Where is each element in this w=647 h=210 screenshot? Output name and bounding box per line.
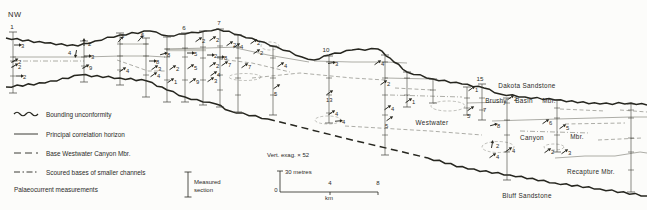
palaeocurrent-value: 4 <box>217 72 221 78</box>
palaeocurrent-value: 7 <box>228 62 231 68</box>
palaeocurrent-value: 2 <box>496 143 499 149</box>
channel-lens <box>229 74 261 81</box>
palaeocurrent-value: 2 <box>216 63 219 69</box>
arrow-shaft <box>278 64 282 67</box>
strat-unit-label: Canyon <box>520 134 544 142</box>
palaeocurrent-measurement: 3 <box>84 54 94 60</box>
dashed-correlation-line <box>395 88 432 90</box>
measured-section <box>503 98 511 180</box>
strat-unit-label: Basin <box>515 97 533 104</box>
vertical-scale-label: 30 metres <box>285 169 312 175</box>
measured-section <box>463 87 471 115</box>
arrow-shaft <box>82 66 87 69</box>
palaeocurrent-measurement: 3 <box>207 76 218 84</box>
palaeocurrent-value: 4 <box>68 50 72 56</box>
strat-unit-label: Mbr. <box>570 133 584 140</box>
measured-section <box>80 41 88 82</box>
scale-unit-label: km <box>325 195 333 201</box>
section-number: 10 <box>323 46 330 53</box>
palaeocurrent-value: 3 <box>21 43 24 49</box>
palaeocurrent-value: 2 <box>551 149 554 155</box>
palaeocurrent-measurement: 2 <box>209 61 220 69</box>
palaeocurrent-measurement: 5 <box>559 123 570 131</box>
arrow-shaft <box>490 155 494 158</box>
palaeocurrent-value: 2 <box>387 81 390 87</box>
arrow-shaft <box>545 150 549 153</box>
palaeocurrent-value: 4 <box>381 61 385 67</box>
palaeocurrent-measurement: 5 <box>117 33 125 43</box>
dashed-correlation-line <box>345 126 482 135</box>
channel-lens <box>431 101 465 111</box>
palaeocurrent-value: 2 <box>176 66 179 72</box>
palaeocurrent-value: 5 <box>194 65 197 71</box>
palaeocurrent-measurement: 4 <box>489 152 500 160</box>
legend-label-bounding-unconformity: Bounding unconformity <box>46 111 112 119</box>
palaeocurrent-value: 4 <box>284 63 288 69</box>
palaeocurrent-measurement: 7 <box>221 60 232 68</box>
palaeocurrent-value: 4 <box>126 68 130 74</box>
palaeocurrent-value: 5 <box>566 125 569 131</box>
palaeocurrent-measurement: 5 <box>467 105 476 119</box>
palaeocurrent-measurement: 4 <box>210 70 221 78</box>
legend-wavy-line-sample <box>14 112 38 116</box>
palaeocurrent-value: 8 <box>497 123 500 129</box>
palaeocurrent-arrows-layer: 3222243954683482155922242827743224531344… <box>11 32 572 160</box>
palaeocurrent-measurement: 5 <box>385 115 394 129</box>
palaeocurrent-measurement: 2 <box>207 53 217 59</box>
palaeocurrent-value: 4 <box>342 119 346 125</box>
palaeocurrent-value: 8 <box>224 55 227 61</box>
arrow-shaft <box>274 86 278 89</box>
palaeocurrent-value: 8 <box>167 52 170 58</box>
palaeocurrent-value: 1 <box>174 79 177 85</box>
region-label: NW <box>8 10 22 19</box>
arrow-head <box>82 38 85 41</box>
palaeocurrent-value: 5 <box>467 113 470 119</box>
palaeocurrent-value: 3 <box>214 78 217 84</box>
measured-section <box>429 79 437 103</box>
arrow-shaft <box>190 80 194 83</box>
arrow-shaft <box>170 67 174 70</box>
palaeocurrent-arrow <box>467 105 476 112</box>
palaeocurrent-measurement: 4 <box>277 61 288 69</box>
correlation-line <box>492 117 647 121</box>
palaeocurrent-measurement: 2 <box>16 74 26 80</box>
palaeocurrent-value: 4 <box>391 106 395 112</box>
palaeocurrent-value: 6 <box>549 120 552 126</box>
palaeocurrent-value: 3 <box>91 54 94 60</box>
bounding-unconformity-line <box>6 29 647 105</box>
palaeocurrent-value: 2 <box>216 37 219 43</box>
arrow-shaft <box>387 118 391 121</box>
palaeocurrent-measurement: 4 <box>374 59 385 67</box>
arrow-shaft <box>327 92 331 95</box>
arrow-shaft <box>208 79 212 82</box>
palaeocurrent-measurement: 2 <box>253 48 264 56</box>
scale-tick-0: 0 <box>274 187 278 193</box>
measured-section <box>142 38 150 97</box>
cross-section-svg: 3222243954683482155922242827743224531344… <box>0 0 647 210</box>
palaeocurrent-value: 3 <box>568 150 571 156</box>
strat-unit-label: Westwater <box>416 119 449 126</box>
palaeocurrent-value: 1 <box>475 87 478 93</box>
palaeocurrent-value: 4 <box>335 111 339 117</box>
legend: Bounding unconformity Principal correlat… <box>14 111 145 193</box>
palaeocurrent-value: 4 <box>512 148 516 154</box>
palaeocurrent-value: 9 <box>89 65 92 71</box>
palaeocurrent-value: 3 <box>158 66 161 72</box>
correlation-line <box>236 48 309 62</box>
measured-section <box>181 33 189 102</box>
vertical-exaggeration-label: Vert. exag. × 52 <box>267 152 310 158</box>
scale-tick-4: 4 <box>328 180 332 186</box>
arrow-shaft <box>562 151 566 154</box>
arrow-shaft <box>11 65 16 68</box>
section-number: 1 <box>10 23 14 30</box>
palaeocurrent-measurement: 1 <box>167 77 178 85</box>
palaeocurrent-measurement: 13 <box>326 89 335 103</box>
arrow-shaft <box>251 41 255 44</box>
palaeocurrent-value: 5 <box>121 33 124 39</box>
strat-unit-label: Brushy <box>485 97 507 105</box>
palaeocurrent-arrow <box>82 38 85 46</box>
palaeocurrent-value: 2 <box>202 38 205 44</box>
palaeocurrent-value: 2 <box>23 74 26 80</box>
palaeocurrent-measurement: 2 <box>82 38 91 47</box>
palaeocurrent-value: 4 <box>157 73 161 79</box>
